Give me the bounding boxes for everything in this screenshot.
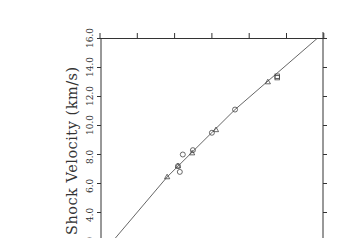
- circle-marker: [180, 152, 185, 157]
- y-tick-label: 12.0: [85, 85, 95, 105]
- y-axis-label: Shock Velocity (km/s): [64, 66, 80, 235]
- y-tick-label: 2.0: [85, 236, 95, 238]
- y-tick-label: 6.0: [85, 178, 95, 192]
- y-tick-label: 16.0: [85, 27, 95, 47]
- y-tick-label: 14.0: [85, 56, 95, 76]
- y-tick-label: 8.0: [85, 149, 95, 163]
- fit-curve: [115, 39, 317, 239]
- circle-marker: [177, 169, 182, 174]
- chart: [0, 0, 345, 238]
- y-tick-label: 4.0: [85, 207, 95, 221]
- y-tick-label: 10.0: [85, 114, 95, 134]
- triangle-marker: [213, 127, 218, 132]
- square-marker: [275, 75, 279, 79]
